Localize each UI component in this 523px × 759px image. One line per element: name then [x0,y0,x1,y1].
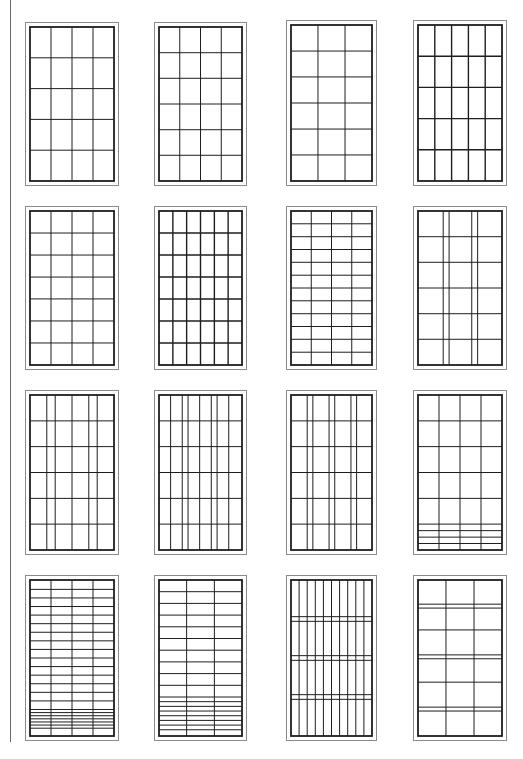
window-grid-drawing [26,391,118,554]
window-panel-r3c3 [286,390,377,555]
window-grid-drawing [26,23,118,185]
faint-page-mark [318,0,348,10]
window-panel-r1c1 [25,22,119,186]
window-panel-r2c1 [25,206,119,370]
window-panel-r3c1 [25,390,119,555]
window-grid-drawing [414,576,506,740]
window-grid-drawing [26,207,118,369]
window-panel-r2c4 [413,206,507,370]
sash-frame [418,25,502,181]
window-grid-drawing [287,391,376,554]
window-grid-drawing [26,576,118,740]
window-panel-r4c3 [286,575,377,741]
page-margin-rule [10,0,11,742]
window-panel-r1c2 [154,22,247,186]
window-panel-r4c1 [25,575,119,741]
window-panel-r1c4 [413,20,507,186]
window-grid-drawing [155,207,246,369]
sash-frame [418,580,502,736]
window-grid-drawing [287,576,376,740]
window-grid-drawing [155,23,246,185]
window-panel-r4c2 [154,575,247,741]
window-grid-drawing [155,391,246,554]
window-panel-r2c2 [154,206,247,370]
window-panel-r2c3 [286,206,377,370]
window-grid-drawing [414,391,506,554]
window-grid-drawing [287,21,376,185]
window-grid-drawing [155,576,246,740]
window-panel-r3c4 [413,390,507,555]
window-grid-drawing [414,21,506,185]
window-grid-drawing [287,207,376,369]
window-grid-drawing [414,207,506,369]
window-panel-r4c4 [413,575,507,741]
window-panel-r3c2 [154,390,247,555]
window-panel-r1c3 [286,20,377,186]
